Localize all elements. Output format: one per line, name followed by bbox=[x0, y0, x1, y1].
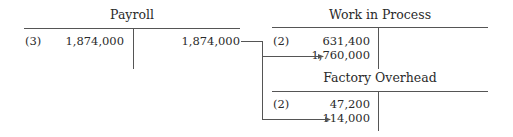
posting-arrows bbox=[0, 0, 513, 137]
arrow-head-wip bbox=[318, 54, 324, 59]
arrow-head-fo bbox=[325, 117, 331, 122]
